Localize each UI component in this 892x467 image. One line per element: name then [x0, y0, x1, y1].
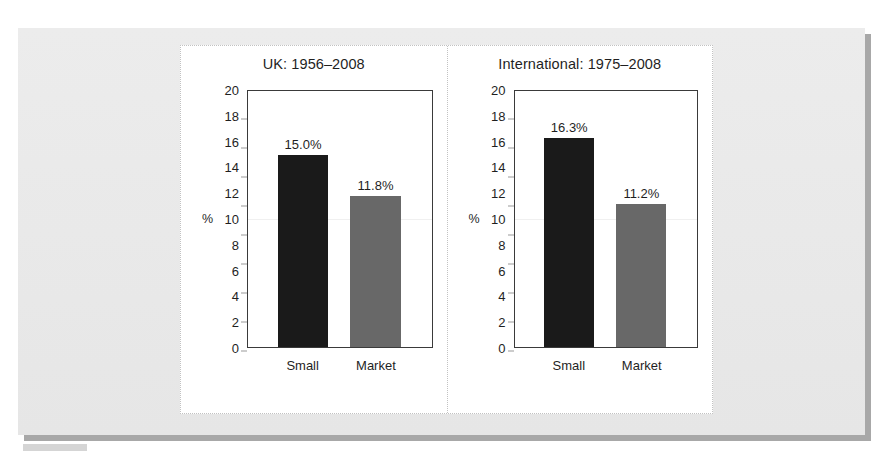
- y-tick-14-intl: 14: [491, 160, 505, 175]
- y-tick-4-intl: 4: [498, 289, 505, 304]
- y-tick-0-intl: 0: [498, 341, 505, 356]
- bar-value-label-market-international: 11.2%: [623, 186, 659, 201]
- bottom-decorative-strip: [23, 444, 87, 451]
- y-axis-uk: % 20 18 16 14 12 10 8 6 4 2 0: [195, 90, 239, 348]
- chart-panel-uk: UK: 1956–2008 % 20 18 16 14 12 10 8 6 4 …: [181, 46, 447, 413]
- y-axis-international: % 20 18 16 14 12 10 8 6 4 2 0: [462, 90, 506, 348]
- y-tick-14-uk: 14: [225, 160, 239, 175]
- y-tick-2-uk: 2: [232, 315, 239, 330]
- y-tick-0-uk: 0: [232, 341, 239, 356]
- plot-frame-uk: 15.0% 11.8%: [247, 90, 433, 348]
- y-tick-10-uk: 10: [225, 212, 239, 227]
- y-tick-12-intl: 12: [491, 186, 505, 201]
- bar-market-international[interactable]: [616, 204, 666, 347]
- y-tick-4-uk: 4: [232, 289, 239, 304]
- x-tick-label-small-uk: Small: [286, 358, 319, 373]
- x-axis-international: Small Market: [514, 352, 699, 376]
- x-tick-label-market-international: Market: [622, 358, 662, 373]
- y-tick-20-uk: 20: [225, 83, 239, 98]
- y-axis-unit-label-international: %: [468, 212, 479, 226]
- chart-panel-international: International: 1975–2008 % 20 18 16 14 1…: [447, 46, 713, 413]
- panel-title-international: International: 1975–2008: [448, 56, 713, 72]
- bar-small-uk[interactable]: [278, 155, 328, 347]
- y-tick-10-intl: 10: [491, 212, 505, 227]
- y-axis-unit-label-uk: %: [202, 212, 213, 226]
- x-tick-label-small-international: Small: [553, 358, 586, 373]
- bar-value-label-small-international: 16.3%: [551, 120, 588, 135]
- y-tick-6-intl: 6: [498, 263, 505, 278]
- panel-title-uk: UK: 1956–2008: [181, 56, 447, 72]
- plot-area-uk: % 20 18 16 14 12 10 8 6 4 2 0: [181, 90, 447, 380]
- y-tick-16-uk: 16: [225, 134, 239, 149]
- figure-panel: UK: 1956–2008 % 20 18 16 14 12 10 8 6 4 …: [18, 28, 865, 435]
- chart-group: UK: 1956–2008 % 20 18 16 14 12 10 8 6 4 …: [180, 45, 713, 414]
- gridline-10-uk: [248, 219, 432, 220]
- x-tick-label-market-uk: Market: [356, 358, 396, 373]
- bar-value-label-small-uk: 15.0%: [285, 137, 322, 152]
- plot-area-international: % 20 18 16 14 12 10 8 6 4 2 0: [448, 90, 713, 380]
- y-tick-20-intl: 20: [491, 83, 505, 98]
- y-tick-18-intl: 18: [491, 108, 505, 123]
- y-tick-16-intl: 16: [491, 134, 505, 149]
- bar-value-label-market-uk: 11.8%: [358, 178, 394, 193]
- y-tick-8-intl: 8: [498, 237, 505, 252]
- bar-market-uk[interactable]: [350, 196, 400, 347]
- x-axis-uk: Small Market: [247, 352, 433, 376]
- y-tick-18-uk: 18: [225, 108, 239, 123]
- y-tick-8-uk: 8: [232, 237, 239, 252]
- y-tick-12-uk: 12: [225, 186, 239, 201]
- y-tick-2-intl: 2: [498, 315, 505, 330]
- gridline-10-intl: [515, 219, 698, 220]
- plot-frame-international: 16.3% 11.2%: [514, 90, 699, 348]
- y-tick-6-uk: 6: [232, 263, 239, 278]
- bar-small-international[interactable]: [544, 138, 594, 347]
